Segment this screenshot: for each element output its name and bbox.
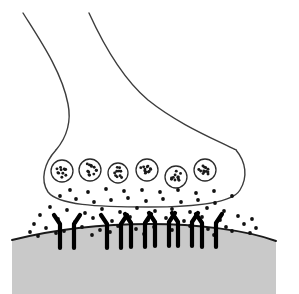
axon-left-outline [23, 13, 69, 150]
neurotransmitter-molecule [188, 210, 192, 214]
axon-group [23, 13, 236, 150]
neurotransmitter-molecule [213, 201, 217, 205]
synaptic-vesicle [79, 159, 101, 181]
neurotransmitter-molecule [62, 229, 66, 233]
neurotransmitter-molecule [248, 231, 252, 235]
neurotransmitter-molecule [182, 219, 186, 223]
neurotransmitter-molecule [86, 190, 90, 194]
synaptic-vesicle [136, 159, 158, 181]
neurotransmitter-molecule [212, 189, 216, 193]
neurotransmitter-molecule [74, 197, 78, 201]
neurotransmitter-molecule [36, 234, 40, 238]
synaptic-vesicle [108, 163, 128, 183]
neurotransmitter-molecule [65, 208, 69, 212]
neurotransmitter-molecule [140, 188, 144, 192]
neurotransmitter-molecule [90, 233, 94, 237]
neurotransmitter-molecule [44, 226, 48, 230]
neurotransmitter-molecule [179, 200, 183, 204]
neurotransmitter-molecule [206, 227, 210, 231]
neurotransmitter-molecule [194, 191, 198, 195]
neurotransmitter-molecule [91, 216, 95, 220]
neurotransmitter-molecule [38, 213, 42, 217]
neurotransmitter-molecule [58, 194, 62, 198]
axon-right-outline [89, 13, 236, 150]
neurotransmitter-molecule [122, 189, 126, 193]
neurotransmitter-molecule [170, 207, 174, 211]
neurotransmitter-molecule [230, 229, 234, 233]
neurotransmitter-molecule [83, 211, 87, 215]
neurotransmitter-molecule [48, 205, 52, 209]
synaptic-vesicle [165, 166, 187, 188]
neurotransmitter-molecule [100, 207, 104, 211]
neurotransmitter-molecule [205, 206, 209, 210]
neurotransmitter-molecule [224, 225, 228, 229]
neurotransmitter-molecule [236, 214, 240, 218]
neurotransmitter-molecule [134, 227, 138, 231]
neurotransmitter-molecule [54, 231, 58, 235]
neurotransmitter-molecule [118, 210, 122, 214]
synapse-figure [0, 0, 299, 294]
neurotransmitter-molecule [80, 225, 84, 229]
neurotransmitter-molecule [158, 190, 162, 194]
neurotransmitter-molecule [110, 219, 114, 223]
synaptic-vesicle [51, 160, 73, 182]
synapse-diagram-canvas [0, 0, 299, 294]
neurotransmitter-molecule [126, 196, 130, 200]
neurotransmitter-molecule [32, 222, 36, 226]
synaptic-vesicle [194, 159, 216, 181]
neurotransmitter-molecule [196, 198, 200, 202]
neurotransmitter-molecule [242, 222, 246, 226]
neurotransmitter-molecule [164, 216, 168, 220]
neurotransmitter-molecule [98, 228, 102, 232]
neurotransmitter-molecule [92, 200, 96, 204]
neurotransmitter-molecule [104, 187, 108, 191]
neurotransmitter-molecule [28, 230, 32, 234]
neurotransmitter-molecule [230, 194, 234, 198]
neurotransmitter-molecule [153, 209, 157, 213]
neurotransmitter-molecule [109, 198, 113, 202]
neurotransmitter-molecule [176, 188, 180, 192]
neurotransmitter-molecule [68, 188, 72, 192]
neurotransmitter-molecule [135, 206, 139, 210]
neurotransmitter-molecule [144, 199, 148, 203]
neurotransmitter-molecule [254, 226, 258, 230]
neurotransmitter-molecule [161, 197, 165, 201]
neurotransmitter-molecule [250, 217, 254, 221]
